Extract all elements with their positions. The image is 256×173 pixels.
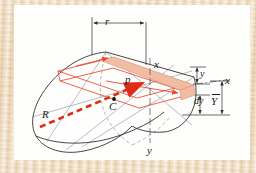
figure-paper: r x p x y dy Y C R y [14,5,250,160]
label-axis-y: y [147,145,152,156]
label-centroid-depth-letter: Y [211,95,217,107]
label-radius-r: r [105,16,109,27]
axis-x [196,80,226,84]
label-axis-x: x [225,75,230,86]
dimension-r [92,17,146,65]
diagram-canvas [14,5,250,160]
label-resultant-R: R [42,109,49,120]
label-centroid-C: C [109,101,116,112]
label-strip-x: x [154,59,159,70]
label-differential-dy: dy [194,96,203,106]
label-depth-y: y [200,69,204,79]
figure-frame: r x p x y dy Y C R y [0,0,256,173]
label-point-p: p [125,74,131,85]
label-centroid-depth-Ybar: Y [211,94,220,107]
